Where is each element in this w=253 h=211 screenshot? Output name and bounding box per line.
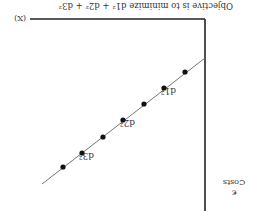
data-point — [100, 134, 105, 139]
label-d3: d3² — [79, 151, 94, 161]
label-d2: d2² — [120, 118, 135, 128]
x-axis-label: (X) — [14, 14, 26, 23]
data-point — [60, 164, 65, 169]
regression-diagram: d1² d2² d3² € Costs (X) Objective is to … — [0, 0, 253, 211]
y-axis-label: Costs — [223, 178, 245, 187]
y-axis-unit: € — [231, 188, 237, 197]
data-point — [182, 69, 187, 74]
data-point — [141, 101, 146, 106]
diagram-canvas: d1² d2² d3² € Costs (X) Objective is to … — [0, 0, 253, 211]
objective-caption: Objective is to minimize d1² + d2² + d3² — [59, 1, 233, 11]
label-d1: d1² — [161, 86, 176, 96]
